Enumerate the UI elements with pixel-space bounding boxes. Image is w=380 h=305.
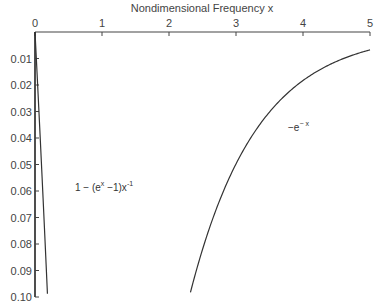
y-tick-label: 0.10 <box>11 291 32 303</box>
x-tick-label: 1 <box>99 17 105 29</box>
y-tick-label: 0.08 <box>11 238 32 250</box>
y-tick-label: 0.02 <box>11 79 32 91</box>
y-tick-label: 0.04 <box>11 132 32 144</box>
y-tick-label: 0.09 <box>11 265 32 277</box>
y-tick-label: 0.06 <box>11 185 32 197</box>
y-axis: 0.010.020.030.040.050.060.070.080.090.10 <box>11 32 39 303</box>
y-tick-label: 0.01 <box>11 53 32 65</box>
x-tick-label: 5 <box>367 17 373 29</box>
x-tick-label: 0 <box>32 17 38 29</box>
x-tick-label: 4 <box>300 17 306 29</box>
annotation-series-2: −e− x <box>288 120 309 133</box>
chart: Nondimensional Frequency x 012345 0.010.… <box>0 0 380 305</box>
annotation-series-1: 1 − (ex −1)x-1 <box>75 180 133 193</box>
y-tick-label: 0.05 <box>11 159 32 171</box>
x-tick-label: 2 <box>166 17 172 29</box>
series-1-line <box>35 32 47 294</box>
y-tick-label: 0.03 <box>11 106 32 118</box>
series-group <box>35 32 370 294</box>
x-tick-label: 3 <box>233 17 239 29</box>
x-axis-title: Nondimensional Frequency x <box>131 2 274 14</box>
x-axis: 012345 <box>32 17 373 36</box>
y-tick-label: 0.07 <box>11 212 32 224</box>
series-2-line <box>190 50 370 293</box>
